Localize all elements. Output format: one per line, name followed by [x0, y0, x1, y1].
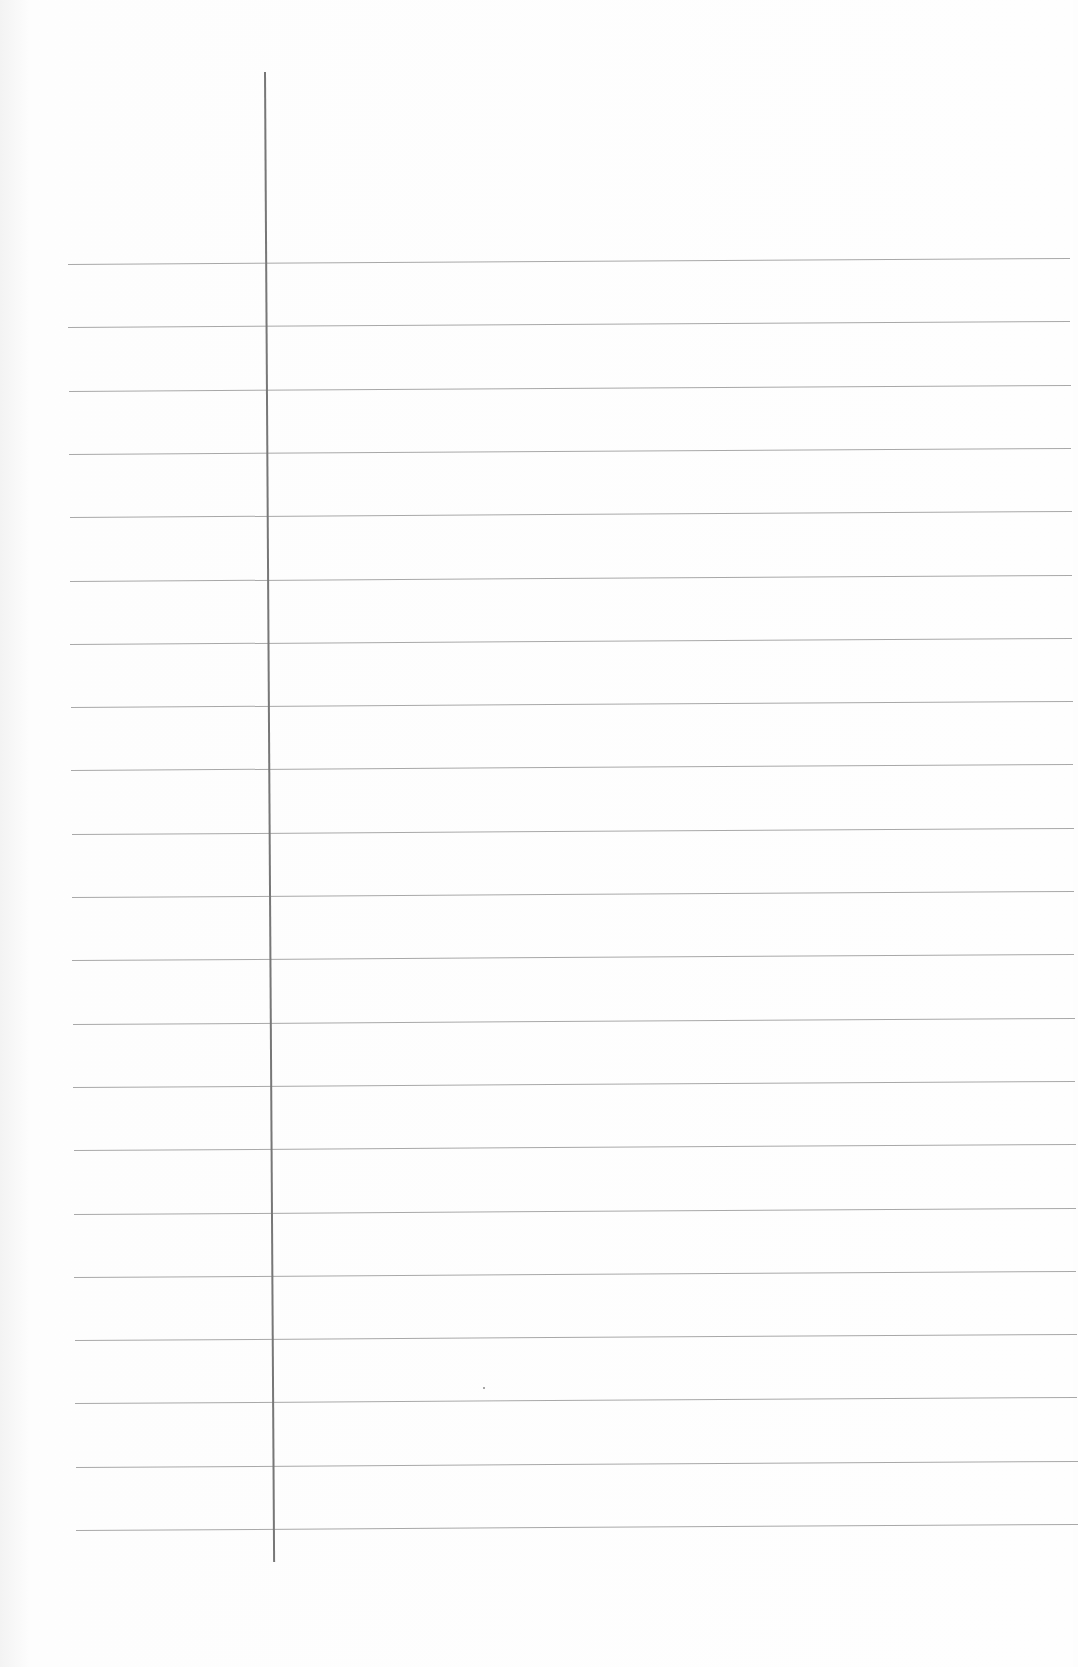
ruled-line	[72, 828, 1074, 835]
ruled-line	[72, 891, 1074, 898]
ruled-line	[68, 258, 1070, 265]
ruled-line	[70, 574, 1072, 581]
ruled-line	[74, 1207, 1076, 1214]
ruled-line	[74, 1271, 1076, 1278]
ruled-line	[71, 764, 1073, 771]
ruled-line	[69, 384, 1071, 391]
speck	[483, 1387, 485, 1389]
ruled-line	[70, 511, 1072, 518]
ruled-line	[73, 1017, 1075, 1024]
ruled-line	[68, 321, 1070, 328]
ruled-line	[75, 1397, 1077, 1404]
ruled-line	[76, 1524, 1078, 1531]
ruled-line	[70, 638, 1072, 645]
ruled-line	[76, 1461, 1078, 1468]
ruled-line	[71, 701, 1073, 708]
ruled-line	[74, 1144, 1076, 1151]
ruled-line	[69, 448, 1071, 455]
ruled-line	[73, 1081, 1075, 1088]
ruled-line	[72, 954, 1074, 961]
ruled-line	[75, 1334, 1077, 1341]
